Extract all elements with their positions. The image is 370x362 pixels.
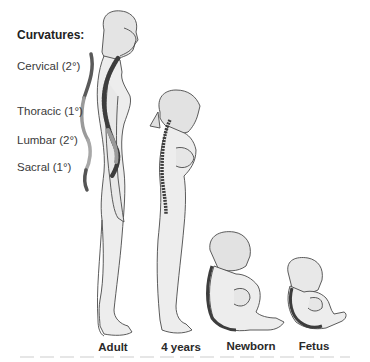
legend-title: Curvatures: bbox=[17, 28, 84, 42]
curvature-indicator bbox=[82, 54, 92, 190]
newborn-figure bbox=[210, 232, 285, 331]
caption-fetus: Fetus bbox=[299, 340, 330, 352]
caption-4-years: 4 years bbox=[161, 341, 201, 353]
child-figure bbox=[150, 90, 200, 333]
caption-adult: Adult bbox=[98, 341, 127, 353]
legend-item-sacral: Sacral (1°) bbox=[17, 161, 71, 173]
legend-item-thoracic: Thoracic (1°) bbox=[17, 105, 83, 117]
caption-newborn: Newborn bbox=[226, 340, 275, 352]
illustration bbox=[0, 0, 370, 362]
faint-footer-line bbox=[20, 356, 350, 358]
legend-item-cervical: Cervical (2°) bbox=[17, 60, 80, 72]
legend-item-lumbar: Lumbar (2°) bbox=[17, 134, 78, 146]
